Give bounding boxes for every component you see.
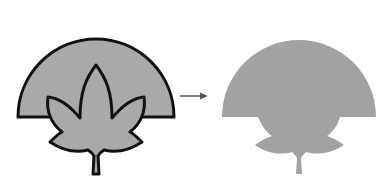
union-diagram	[0, 0, 392, 184]
right-figure	[222, 40, 376, 174]
merged-leaf-body	[255, 117, 344, 174]
merged-silhouette	[222, 40, 376, 117]
left-figure	[18, 39, 174, 174]
arrow-right-icon	[180, 93, 208, 100]
